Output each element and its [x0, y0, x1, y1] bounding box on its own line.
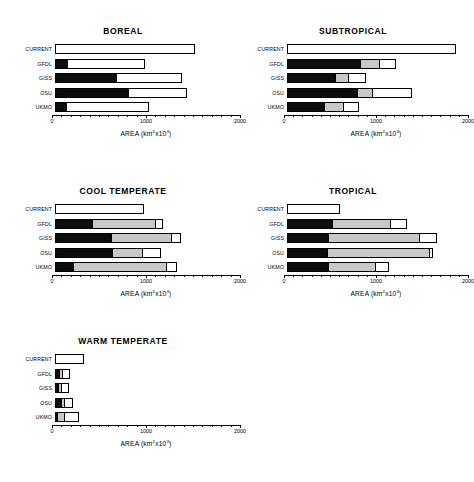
bar-segment-gray — [332, 220, 391, 228]
axis-title: AREA (km2x103) — [284, 129, 468, 137]
chart-panel-tropical: TROPICALCURRENTGFDLGISSOSUUKMO010002000A… — [238, 186, 468, 301]
x-axis: 010002000AREA (km2x103) — [52, 275, 240, 301]
row-label-gfdl: GFDL — [6, 61, 55, 67]
axis-tick-label: 1000 — [370, 278, 382, 284]
stacked-bar — [55, 219, 163, 229]
x-axis: 010002000AREA (km2x103) — [52, 425, 240, 451]
axis-title-suffix: ) — [169, 440, 171, 447]
bar-track — [287, 246, 468, 261]
bar-row: GFDL — [238, 217, 468, 232]
axis-title-mid: x10 — [385, 130, 396, 137]
row-label-current: CURRENT — [6, 46, 55, 52]
row-label-osu: OSU — [238, 250, 287, 256]
stacked-bar — [55, 73, 182, 83]
bar-segment-black — [56, 74, 117, 82]
stacked-bar — [55, 248, 161, 258]
bar-row: UKMO — [6, 100, 240, 115]
row-label-gfdl: GFDL — [238, 221, 287, 227]
axis-title: AREA (km2x103) — [52, 289, 240, 297]
row-label-current: CURRENT — [238, 46, 287, 52]
bar-row: GISS — [6, 231, 240, 246]
bar-segment-white — [288, 45, 455, 53]
bar-row: GFDL — [6, 57, 240, 72]
bar-row: GISS — [238, 71, 468, 86]
stacked-bar — [55, 59, 145, 69]
bar-segment-white — [156, 220, 162, 228]
bar-track — [287, 202, 468, 217]
stacked-bar — [55, 233, 181, 243]
chart-panel-subtropical: SUBTROPICALCURRENTGFDLGISSOSUUKMO0100020… — [238, 26, 468, 141]
axis-title-prefix: AREA (km — [121, 440, 153, 447]
bar-row: UKMO — [6, 410, 240, 425]
bar-segment-white — [391, 220, 405, 228]
stacked-bar — [55, 88, 187, 98]
stacked-bar — [55, 398, 73, 408]
axis-tick-label: 1000 — [140, 428, 152, 434]
x-axis: 010002000AREA (km2x103) — [284, 275, 468, 301]
axis-title: AREA (km2x103) — [52, 439, 240, 447]
row-label-current: CURRENT — [6, 206, 55, 212]
bar-row: GISS — [6, 381, 240, 396]
bar-row: CURRENT — [6, 352, 240, 367]
bar-track — [55, 367, 240, 382]
bar-segment-white — [56, 205, 143, 213]
stacked-bar — [287, 102, 359, 112]
stacked-bar — [55, 383, 69, 393]
bar-segment-gray — [73, 263, 167, 271]
axis-title-suffix: ) — [169, 290, 171, 297]
axis-tick-label: 0 — [283, 118, 286, 124]
bar-segment-gray — [357, 89, 373, 97]
row-label-gfdl: GFDL — [6, 221, 55, 227]
bar-row: GFDL — [238, 57, 468, 72]
axis-tick-label: 2000 — [462, 278, 474, 284]
row-label-ukmo: UKMO — [6, 104, 55, 110]
bar-segment-black — [288, 103, 324, 111]
bar-row: GFDL — [6, 217, 240, 232]
bar-segment-white — [430, 249, 432, 257]
axis-title-mid: x10 — [155, 130, 166, 137]
bar-segment-white — [62, 384, 67, 392]
axis-tick-label: 1000 — [140, 278, 152, 284]
x-axis: 010002000AREA (km2x103) — [52, 115, 240, 141]
bar-segment-white — [143, 249, 161, 257]
bar-track — [287, 86, 468, 101]
bar-segment-black — [288, 89, 357, 97]
bar-track — [55, 86, 240, 101]
axis-tick-label: 1000 — [370, 118, 382, 124]
bar-segment-white — [65, 413, 77, 421]
bar-segment-black — [288, 220, 332, 228]
bar-rows: CURRENTGFDLGISSOSUUKMO — [6, 202, 240, 275]
axis-tick-labels: 010002000 — [52, 118, 240, 128]
bar-track — [287, 71, 468, 86]
bar-segment-white — [373, 89, 411, 97]
axis-tick-label: 0 — [51, 278, 54, 284]
stacked-bar — [287, 44, 456, 54]
axis-title: AREA (km2x103) — [52, 129, 240, 137]
bar-row: CURRENT — [238, 202, 468, 217]
bar-row: OSU — [6, 396, 240, 411]
bar-segment-black — [56, 234, 111, 242]
stacked-bar — [55, 262, 177, 272]
bar-segment-gray — [92, 220, 156, 228]
stacked-bar — [55, 204, 144, 214]
axis-tick-label: 0 — [283, 278, 286, 284]
axis-title-prefix: AREA (km — [351, 290, 383, 297]
bar-track — [287, 217, 468, 232]
bar-track — [55, 260, 240, 275]
bar-rows: CURRENTGFDLGISSOSUUKMO — [238, 42, 468, 115]
bar-row: CURRENT — [6, 202, 240, 217]
bar-segment-white — [380, 60, 394, 68]
stacked-bar — [287, 233, 437, 243]
row-label-current: CURRENT — [238, 206, 287, 212]
stacked-bar — [287, 88, 412, 98]
axis-tick-labels: 010002000 — [284, 118, 468, 128]
bar-segment-gray — [327, 249, 430, 257]
axis-title-mid: x10 — [155, 440, 166, 447]
bar-track — [287, 100, 468, 115]
row-label-ukmo: UKMO — [6, 264, 55, 270]
bar-track — [55, 231, 240, 246]
row-label-osu: OSU — [6, 250, 55, 256]
bar-row: CURRENT — [6, 42, 240, 57]
chart-panel-warm-temperate: WARM TEMPERATECURRENTGFDLGISSOSUUKMO0100… — [6, 336, 240, 451]
axis-title-suffix: ) — [399, 290, 401, 297]
